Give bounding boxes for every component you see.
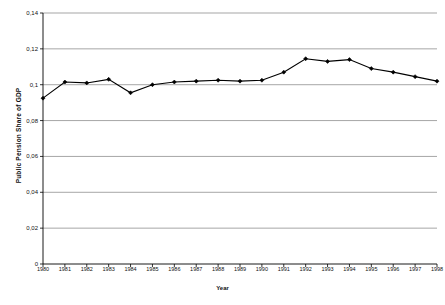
x-axis-tick-label: 1982	[81, 266, 93, 272]
y-axis-tick-label: 0,08	[26, 118, 38, 124]
x-axis-tick-label: 1990	[256, 266, 268, 272]
x-axis-tick-label: 1983	[103, 266, 115, 272]
x-axis-tick-label: 1991	[278, 266, 290, 272]
y-axis-tick-label: 0,02	[26, 225, 38, 231]
x-axis-label: Year	[0, 285, 445, 291]
x-axis-tick-label: 1997	[409, 266, 421, 272]
y-axis-tick-label: 0,06	[26, 153, 38, 159]
x-axis-tick-label: 1984	[124, 266, 136, 272]
y-axis-tick-label: 0,14	[26, 10, 38, 16]
x-axis-tick-label: 1998	[431, 266, 443, 272]
chart-container: Public Pension Share of GDP 00,020,040,0…	[0, 0, 445, 305]
y-axis-tick-label: 0,1	[30, 82, 38, 88]
x-axis-tick-label: 1987	[190, 266, 202, 272]
x-axis-tick-label: 1996	[387, 266, 399, 272]
x-axis-tick-label: 1989	[234, 266, 246, 272]
x-axis-tick-label: 1992	[300, 266, 312, 272]
y-axis-tick-labels: 00,020,040,060,080,10,120,14	[0, 0, 445, 305]
x-axis-tick-label: 1994	[343, 266, 355, 272]
y-axis-tick-label: 0,04	[26, 189, 38, 195]
x-axis-tick-label: 1985	[146, 266, 158, 272]
x-axis-tick-label: 1993	[321, 266, 333, 272]
x-axis-tick-label: 1995	[365, 266, 377, 272]
x-axis-tick-label: 1986	[168, 266, 180, 272]
y-axis-tick-label: 0,12	[26, 46, 38, 52]
x-axis-tick-label: 1980	[37, 266, 49, 272]
x-axis-tick-label: 1988	[212, 266, 224, 272]
x-axis-tick-label: 1981	[59, 266, 71, 272]
